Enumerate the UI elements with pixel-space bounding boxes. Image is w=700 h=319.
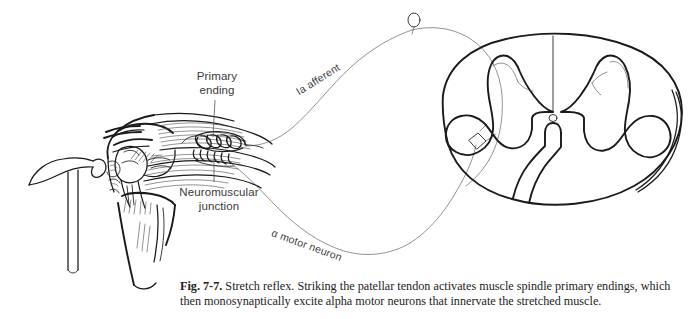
ia-afferent-axon (246, 28, 502, 186)
reflex-hammer-icon (29, 158, 106, 273)
spinal-cord-cross-section (443, 34, 682, 205)
muscle-spindle-icon (182, 132, 263, 152)
stretch-reflex-figure: Primary ending Neuromuscular junction Ia… (0, 0, 700, 319)
figure-caption: Fig. 7-7. Stretch reflex. Striking the p… (180, 279, 688, 308)
caption-figure-number: Fig. 7-7. (180, 279, 222, 293)
caption-body: Stretch reflex. Striking the patellar te… (180, 279, 670, 308)
label-neuromuscular-junction: Neuromuscular junction (160, 186, 278, 213)
label-leader-lines (213, 100, 215, 182)
label-primary-ending: Primary ending (178, 70, 256, 97)
stretch-reflex-illustration (0, 0, 700, 319)
